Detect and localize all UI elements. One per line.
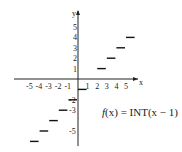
y-tick-label: 3 [73,44,77,53]
y-tick-label: 2 [73,54,77,63]
y-tick-label: 5 [73,23,77,32]
y-tick-label: 1 [73,65,77,74]
x-tick-label: 5 [124,82,128,91]
function-label: f(x) = INT(x − 1) [102,106,178,118]
x-tick-label: -2 [55,82,62,91]
x-tick-label: -1 [64,82,71,91]
x-tick-label: 3 [105,82,109,91]
x-tick-label: 2 [95,82,99,91]
x-tick-label: -5 [26,82,33,91]
y-tick-label: -5 [69,127,76,136]
x-tick-label: -4 [36,82,43,91]
y-axis-arrow-icon [76,10,80,15]
y-axis-label: y [72,9,76,18]
y-tick-label: -3 [69,106,76,115]
step-function-chart: xy -5-4-3-2-112345-5-3-212345 [0,0,182,152]
x-tick-label: -3 [45,82,52,91]
x-axis-arrow-icon [133,77,138,81]
function-expression: (x) = INT(x − 1) [105,106,178,118]
x-tick-label: 4 [114,82,118,91]
x-axis-label: x [139,78,143,87]
axes: xy [14,9,143,146]
y-tick-label: 4 [73,33,77,42]
